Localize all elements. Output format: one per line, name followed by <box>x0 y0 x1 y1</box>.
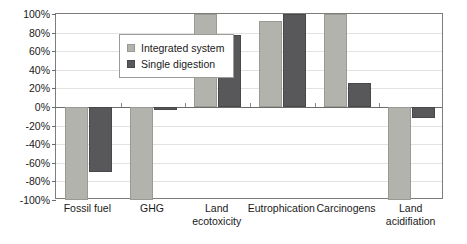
y-axis-tick-label: -80% <box>25 176 50 187</box>
bar <box>388 107 411 200</box>
y-axis-tick-label: 80% <box>29 27 50 38</box>
x-axis-tick <box>185 103 186 107</box>
x-axis-tick <box>379 103 380 107</box>
y-axis-tick-label: 20% <box>29 83 50 94</box>
y-axis-tick <box>52 200 56 201</box>
bar <box>283 14 306 107</box>
x-axis-category-labels: Fossil fuelGHGLand ecotoxicityEutrophica… <box>55 202 443 244</box>
chart-legend: Integrated system Single digestion <box>119 34 234 78</box>
x-axis-tick <box>315 103 316 107</box>
bar <box>130 107 153 200</box>
bar <box>348 83 371 107</box>
bar <box>412 107 435 118</box>
bar <box>65 107 88 200</box>
legend-label: Integrated system <box>141 43 224 54</box>
x-axis-category-label: GHG <box>140 202 164 215</box>
bar <box>154 107 177 110</box>
y-axis-tick-label: 40% <box>29 65 50 76</box>
legend-label: Single digestion <box>141 59 215 70</box>
x-axis-tick <box>250 103 251 107</box>
y-axis-tick-label: 100% <box>23 9 50 20</box>
x-axis-category-label: Carcinogens <box>317 202 376 215</box>
y-axis-tick-label: -20% <box>25 120 50 131</box>
dark-gray-swatch-icon <box>127 60 135 68</box>
x-axis-tick <box>121 103 122 107</box>
bars-layer <box>56 14 442 198</box>
bar-chart: 100%80%60%40%20%0%-20%-40%-60%-80%-100% … <box>0 0 467 244</box>
y-axis-tick-label: 60% <box>29 46 50 57</box>
x-axis-category-label: Eutrophication <box>248 202 315 215</box>
legend-item-integrated-system: Integrated system <box>127 40 224 56</box>
x-axis-category-label: Fossil fuel <box>64 202 111 215</box>
y-axis-tick-label: -100% <box>20 195 50 206</box>
bar <box>259 21 282 107</box>
light-gray-swatch-icon <box>127 44 135 52</box>
plot-area: 100%80%60%40%20%0%-20%-40%-60%-80%-100% … <box>55 13 443 199</box>
x-axis-category-label: Land ecotoxicity <box>192 202 241 227</box>
y-axis-tick-label: -60% <box>25 158 50 169</box>
legend-item-single-digestion: Single digestion <box>127 56 224 72</box>
y-axis-tick-label: -40% <box>25 139 50 150</box>
y-axis-tick-label: 0% <box>35 102 50 113</box>
x-axis-category-label: Land acidifiation <box>386 202 436 227</box>
bar <box>324 14 347 107</box>
bar <box>89 107 112 172</box>
